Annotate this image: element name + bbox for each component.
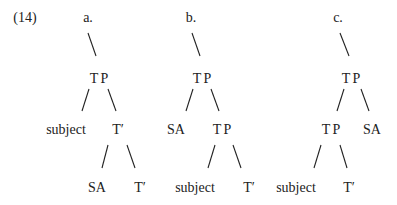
tree-b-subject-node: subject <box>175 181 215 195</box>
tree-a-label: a. <box>83 11 93 25</box>
edge-c-root-sa <box>361 89 369 111</box>
edge-b-root-sa <box>186 89 193 111</box>
tree-b-sa-node: SA <box>167 123 185 137</box>
edge-c-label-root <box>340 33 349 56</box>
edge-b-label-root <box>192 33 200 56</box>
edge-c-tp-subject <box>314 145 321 168</box>
edge-a-label-root <box>88 33 96 56</box>
edge-a-root-tbar <box>108 89 116 111</box>
tree-c-tbar-node: T′ <box>343 181 355 195</box>
tree-c-subject-node: subject <box>276 181 316 195</box>
edge-a-tbar-sa <box>102 145 108 168</box>
tree-c-root-node: TP <box>342 72 362 86</box>
edge-a-root-subject <box>82 89 89 111</box>
tree-c-sa-node: SA <box>363 123 381 137</box>
tree-edges <box>0 0 397 205</box>
tree-a-tbar-node: T′ <box>112 123 124 137</box>
edge-c-root-tp <box>337 89 344 111</box>
tree-b-label: b. <box>186 11 197 25</box>
tree-a-sa-node: SA <box>88 181 106 195</box>
tree-a-subject-node: subject <box>46 123 86 137</box>
tree-c-label: c. <box>333 11 343 25</box>
edge-b-tp-tbar <box>233 145 241 168</box>
tree-a-tbar-leaf-node: T′ <box>134 181 146 195</box>
edge-a-tbar-tbar <box>127 145 135 168</box>
edge-b-root-tp <box>211 89 219 111</box>
tree-b-tp-node: TP <box>213 123 233 137</box>
edge-b-tp-subject <box>208 145 215 168</box>
tree-c-tp-node: TP <box>322 123 342 137</box>
tree-b-root-node: TP <box>193 72 213 86</box>
edge-c-tp-tbar <box>340 145 347 168</box>
tree-a-root-node: TP <box>90 72 110 86</box>
tree-b-tbar-node: T′ <box>243 181 255 195</box>
